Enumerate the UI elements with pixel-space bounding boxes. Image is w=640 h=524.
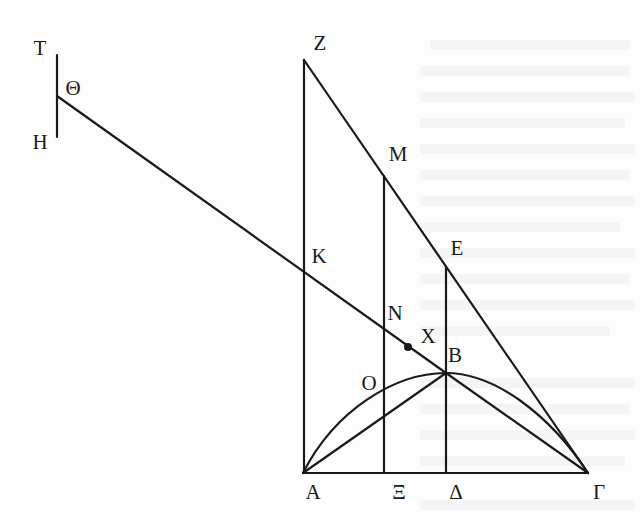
label-Theta: Θ bbox=[65, 78, 80, 99]
label-B: Β bbox=[448, 345, 462, 366]
label-E: Ε bbox=[451, 238, 464, 259]
segment-Theta-B bbox=[57, 96, 446, 373]
label-M: Μ bbox=[389, 144, 408, 165]
label-O: Ο bbox=[361, 373, 376, 394]
label-T: Τ bbox=[34, 38, 47, 59]
label-N: Ν bbox=[387, 303, 402, 324]
diagram-page: Τ Θ Η Ζ Μ Ε Κ Ν Χ Β Ο Α Ξ Δ Γ bbox=[0, 0, 640, 524]
label-Gamma: Γ bbox=[593, 482, 605, 503]
label-K: Κ bbox=[311, 246, 326, 267]
segment-B-Gamma bbox=[446, 373, 588, 473]
label-H: Η bbox=[32, 132, 47, 153]
point-X-dot bbox=[404, 343, 412, 351]
label-Xi: Ξ bbox=[392, 482, 406, 503]
label-Z: Ζ bbox=[314, 33, 327, 54]
label-Delta: Δ bbox=[449, 482, 463, 503]
label-A: Α bbox=[305, 482, 320, 503]
label-X: Χ bbox=[420, 326, 435, 347]
